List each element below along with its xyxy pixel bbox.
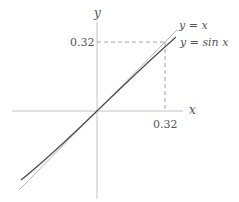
- y-axis-label: y: [93, 6, 101, 20]
- curve-y-equals-sin-x: [21, 37, 176, 180]
- y-tick-label: 0.32: [70, 36, 95, 49]
- label-y-equals-x: y = x: [178, 19, 208, 32]
- x-tick-label: 0.32: [153, 118, 178, 131]
- sine-approximation-figure: y x 0.32 0.32 y = x y = sin x: [0, 0, 239, 202]
- x-axis-label: x: [189, 103, 196, 117]
- label-y-equals-sin-x: y = sin x: [179, 36, 229, 49]
